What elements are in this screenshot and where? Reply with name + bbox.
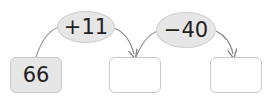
- operation-oval-2: −40: [156, 12, 216, 48]
- operation-label: +11: [64, 15, 108, 39]
- operation-label: −40: [164, 18, 208, 42]
- arrow-1: [36, 27, 60, 57]
- answer-box-2[interactable]: [109, 57, 161, 93]
- answer-box-3[interactable]: [210, 57, 262, 93]
- arrow-2: [136, 31, 158, 57]
- box-value: 66: [23, 63, 50, 87]
- number-box-1: 66: [10, 57, 62, 93]
- arrow-1-head: [113, 28, 134, 54]
- operation-oval-1: +11: [57, 11, 115, 43]
- arrow-2-head: [216, 31, 233, 54]
